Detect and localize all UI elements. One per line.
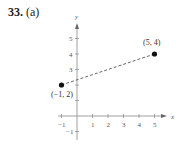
y-axis-arrow-icon bbox=[75, 23, 79, 29]
y-tick-label: 3 bbox=[69, 66, 73, 74]
x-axis-arrow-icon bbox=[161, 114, 167, 118]
y-axis-label: y bbox=[74, 13, 79, 21]
x-tick-label: 5 bbox=[153, 121, 157, 129]
x-tick-label: 3 bbox=[122, 121, 126, 129]
x-tick-label: 2 bbox=[107, 121, 111, 129]
x-axis-label: x bbox=[170, 113, 175, 121]
y-tick-label: 4 bbox=[69, 51, 73, 59]
point-marker bbox=[152, 51, 157, 56]
point-label: (−1, 2) bbox=[51, 90, 73, 99]
x-tick-label: 4 bbox=[138, 121, 142, 129]
x-tick-label: 1 bbox=[91, 121, 95, 129]
y-tick-label: −1 bbox=[66, 128, 74, 136]
x-tick-label: −1 bbox=[58, 121, 66, 129]
point-label: (5, 4) bbox=[143, 38, 161, 47]
y-tick-label: 5 bbox=[69, 35, 73, 43]
point-marker bbox=[59, 82, 64, 87]
coordinate-plane: x y −1 1 2 3 4 5 −1 3 4 5 (−1, 2) (5, 4) bbox=[0, 0, 182, 149]
